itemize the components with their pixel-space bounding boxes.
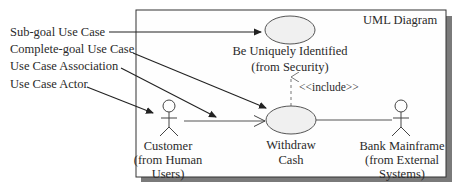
actor-label-line1: Customer xyxy=(144,139,193,153)
actor-label-line3: Systems) xyxy=(379,167,425,181)
legend-complete-goal-use-case: Complete-goal Use Case xyxy=(10,42,135,56)
actor-label-line3: Users) xyxy=(152,167,185,181)
use-case-label-line1: Be Uniquely Identified xyxy=(232,44,348,58)
actor-label-line2: (from Human xyxy=(134,153,203,167)
use-case-withdraw-cash xyxy=(266,106,316,134)
use-case-be-uniquely-identified xyxy=(265,16,315,44)
include-stereotype: <<include>> xyxy=(299,81,359,93)
actor-label-line1: Bank Mainframe xyxy=(359,139,444,153)
legend-use-case-actor: Use Case Actor xyxy=(10,77,89,91)
use-case-label-line1: Withdraw xyxy=(266,138,315,152)
frame-title: UML Diagram xyxy=(363,13,437,27)
legend-sub-goal-use-case: Sub-goal Use Case xyxy=(10,25,106,39)
uml-use-case-diagram: UML Diagram Sub-goal Use Case Complete-g… xyxy=(0,0,455,194)
use-case-label-line2: Cash xyxy=(279,153,305,167)
use-case-label-line2: (from Security) xyxy=(251,60,328,74)
legend-use-case-association: Use Case Association xyxy=(10,59,119,73)
actor-label-line2: (from External xyxy=(365,153,439,167)
